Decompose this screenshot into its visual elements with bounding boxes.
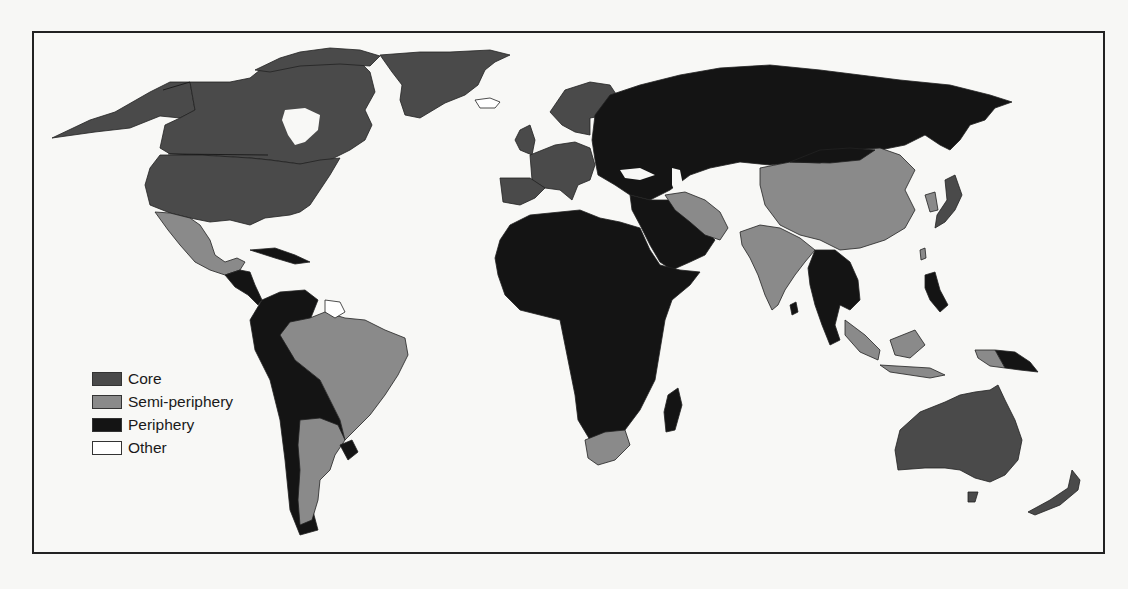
legend-item-core: Core <box>92 367 233 390</box>
legend-swatch-other <box>92 441 122 455</box>
region-mexico <box>155 212 245 275</box>
region-philippines <box>925 272 948 312</box>
region-argentina <box>298 418 345 525</box>
region-japan <box>935 175 962 228</box>
region-madagascar <box>664 388 682 432</box>
region-iceland <box>475 98 500 108</box>
region-caribbean <box>250 248 310 264</box>
legend-swatch-core <box>92 372 122 386</box>
legend-item-periphery: Periphery <box>92 413 233 436</box>
world-map <box>0 0 1128 589</box>
legend-label: Semi-periphery <box>128 393 233 411</box>
legend-label: Core <box>128 370 162 388</box>
legend-swatch-periphery <box>92 418 122 432</box>
legend-item-other: Other <box>92 436 233 459</box>
legend-label: Periphery <box>128 416 194 434</box>
region-tasmania <box>968 492 978 502</box>
map-legend: Core Semi-periphery Periphery Other <box>92 367 233 459</box>
region-sri-lanka <box>790 302 798 315</box>
region-canada <box>160 60 375 164</box>
region-central-america <box>225 270 262 305</box>
legend-item-semi-periphery: Semi-periphery <box>92 390 233 413</box>
region-new-zealand <box>1028 470 1080 515</box>
region-australia <box>895 385 1022 482</box>
legend-label: Other <box>128 439 167 457</box>
region-uk <box>515 125 535 155</box>
legend-swatch-semi-periphery <box>92 395 122 409</box>
region-india <box>740 225 815 310</box>
region-indonesia <box>845 320 945 378</box>
